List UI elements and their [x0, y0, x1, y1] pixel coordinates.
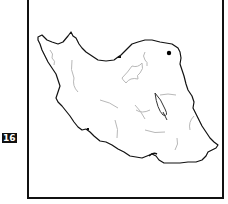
caspian-port-mark [118, 56, 121, 58]
central-lakes [155, 93, 167, 120]
rivers-and-lakes [50, 50, 194, 150]
country-border [38, 32, 218, 163]
gulf-port-mark [87, 128, 89, 130]
city-marker-icon [167, 51, 171, 55]
iran-outline-map [0, 0, 228, 204]
